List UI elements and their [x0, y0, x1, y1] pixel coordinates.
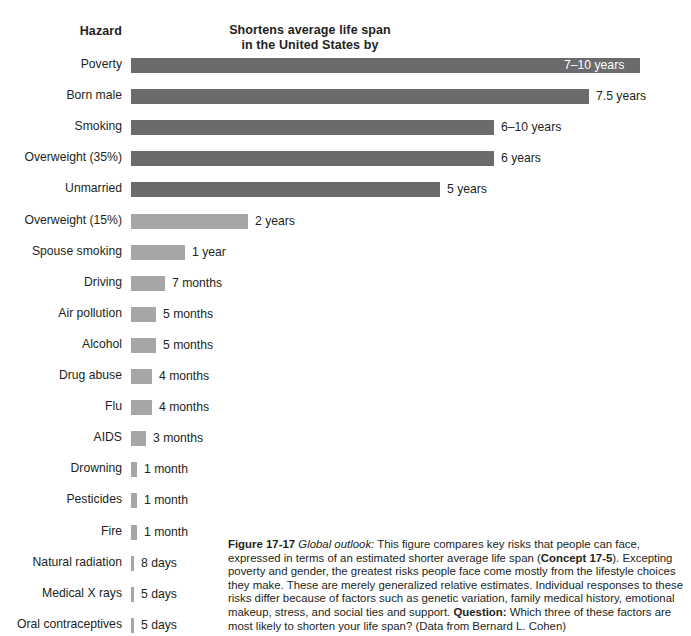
row-label: Poverty: [0, 58, 122, 71]
caption-question-label: Question:: [453, 606, 506, 618]
bar-value-label: 1 year: [192, 245, 226, 260]
bar: [131, 431, 146, 446]
row-label: Natural radiation: [0, 556, 122, 569]
caption-concept-ref: Concept 17-5: [541, 552, 613, 564]
row-label: Unmarried: [0, 182, 122, 195]
bar-value-label: 2 years: [255, 214, 295, 229]
bar-value-label: 7–10 years: [564, 58, 624, 73]
bar-value-label: 6 years: [501, 151, 541, 166]
bar: [131, 525, 137, 540]
bar-value-label: 5 days: [141, 618, 177, 633]
bar-value-label: 5 days: [141, 587, 177, 602]
column-header-hazard: Hazard: [0, 24, 122, 38]
row-label: Oral contraceptives: [0, 618, 122, 631]
chart-row: Driving7 months: [0, 276, 691, 298]
bar: [131, 245, 185, 260]
column-header-lifespan-line2: in the United States by: [160, 38, 460, 53]
caption-lead-italic: Global outlook:: [298, 538, 374, 550]
chart-row: Spouse smoking1 year: [0, 245, 691, 267]
row-label: Drowning: [0, 462, 122, 475]
chart-row: Drowning1 month: [0, 462, 691, 484]
chart-row: Alcohol5 months: [0, 338, 691, 360]
bar-value-label: 4 months: [159, 400, 209, 415]
row-label: Drug abuse: [0, 369, 122, 382]
bar: [131, 214, 248, 229]
bar-value-label: 7 months: [172, 276, 222, 291]
row-label: Born male: [0, 89, 122, 102]
bar-value-label: 5 years: [447, 182, 487, 197]
bar: [131, 556, 134, 571]
bar-value-label: 3 months: [153, 431, 203, 446]
bar-value-label: 6–10 years: [501, 120, 561, 135]
row-label: Flu: [0, 400, 122, 413]
chart-row: Air pollution5 months: [0, 307, 691, 329]
bar: [131, 276, 165, 291]
row-label: Overweight (15%): [0, 214, 122, 227]
column-header-lifespan: Shortens average life span in the United…: [160, 23, 460, 52]
chart-row: Smoking6–10 years: [0, 120, 691, 142]
row-label: Medical X rays: [0, 587, 122, 600]
bar: [131, 587, 134, 602]
bar: [131, 307, 156, 322]
row-label: Fire: [0, 525, 122, 538]
chart-row: Born male7.5 years: [0, 89, 691, 111]
bar-value-label: 4 months: [159, 369, 209, 384]
bar-value-label: 7.5 years: [596, 89, 646, 104]
chart-row: Poverty7–10 years: [0, 58, 691, 80]
chart-row: Unmarried5 years: [0, 182, 691, 204]
bar-value-label: 5 months: [163, 338, 213, 353]
chart-row: Pesticides1 month: [0, 493, 691, 515]
row-label: Spouse smoking: [0, 245, 122, 258]
figure-caption: Figure 17-17 Global outlook: This figure…: [228, 538, 684, 633]
chart-row: Overweight (15%)2 years: [0, 214, 691, 236]
chart-row: Overweight (35%)6 years: [0, 151, 691, 173]
bar: [131, 493, 137, 508]
figure-17-17: Hazard Shortens average life span in the…: [0, 0, 691, 636]
bar: [131, 462, 137, 477]
row-label: Pesticides: [0, 493, 122, 506]
bar: [131, 369, 152, 384]
row-label: Alcohol: [0, 338, 122, 351]
caption-figure-number: Figure 17-17: [228, 538, 295, 550]
bar: [131, 120, 494, 135]
bar: [131, 151, 494, 166]
chart-row: Flu4 months: [0, 400, 691, 422]
chart-row: Drug abuse4 months: [0, 369, 691, 391]
bar: [131, 89, 589, 104]
bar-value-label: 1 month: [144, 462, 188, 477]
row-label: Air pollution: [0, 307, 122, 320]
row-label: Driving: [0, 276, 122, 289]
row-label: AIDS: [0, 431, 122, 444]
bar: [131, 400, 152, 415]
bar-value-label: 1 month: [144, 525, 188, 540]
bar: [131, 618, 134, 633]
bar-value-label: 5 months: [163, 307, 213, 322]
bar-value-label: 8 days: [141, 556, 177, 571]
chart-row: AIDS3 months: [0, 431, 691, 453]
bar: [131, 338, 156, 353]
bar: [131, 182, 440, 197]
column-header-lifespan-line1: Shortens average life span: [160, 23, 460, 38]
bar-value-label: 1 month: [144, 493, 188, 508]
row-label: Smoking: [0, 120, 122, 133]
row-label: Overweight (35%): [0, 151, 122, 164]
